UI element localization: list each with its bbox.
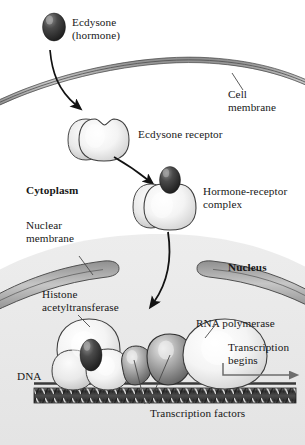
- label-cell-membrane: Cell membrane: [228, 88, 276, 113]
- label-histone-acetyltransferase: Histone acetyltransferase: [42, 288, 119, 313]
- label-transcription-begins: Transcription begins: [228, 341, 289, 366]
- arrow-binding: [114, 157, 148, 180]
- label-cytoplasm: Cytoplasm: [26, 184, 79, 197]
- label-nucleus: Nucleus: [228, 261, 267, 274]
- label-hormone-receptor-complex: Hormone-receptor complex: [203, 185, 287, 210]
- label-nuclear-membrane: Nuclear membrane: [26, 219, 74, 244]
- label-ecdysone-receptor: Ecdysone receptor: [138, 128, 223, 141]
- figure-canvas: Ecdysone (hormone) Cell membrane Ecdyson…: [0, 0, 305, 445]
- label-rna-polymerase: RNA polymerase: [196, 317, 275, 330]
- label-dna: DNA: [17, 370, 42, 383]
- ecdysone-hormone: [43, 13, 66, 41]
- ecdysone-receptor: [68, 119, 129, 161]
- label-ecdysone: Ecdysone (hormone): [72, 16, 120, 41]
- label-transcription-factors: Transcription factors: [150, 407, 245, 420]
